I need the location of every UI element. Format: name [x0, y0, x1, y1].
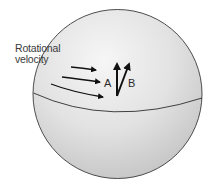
rotational-velocity-label: Rotational velocity	[15, 43, 60, 65]
rotating-sphere-diagram: Rotational velocity A B	[0, 0, 213, 187]
vector-b-label: B	[128, 78, 135, 89]
sphere-drawing	[0, 0, 213, 187]
label-line-velocity: velocity	[15, 54, 60, 65]
vector-a-label: A	[104, 78, 111, 89]
